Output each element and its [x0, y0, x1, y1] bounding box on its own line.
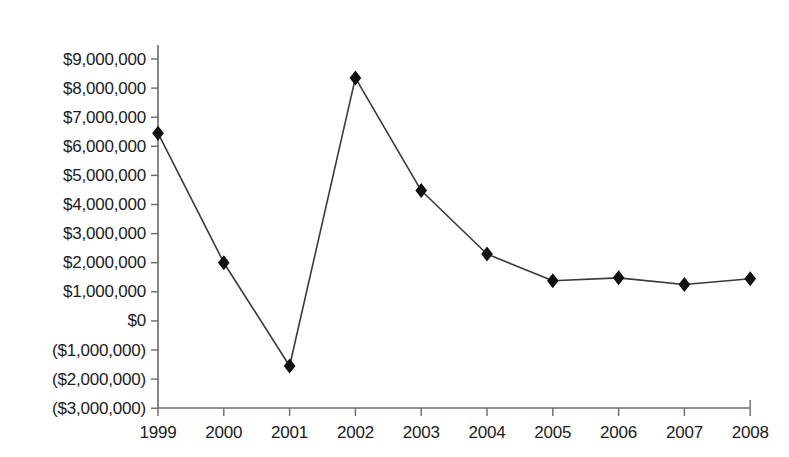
line-chart: $9,000,000$8,000,000$7,000,000$6,000,000…	[0, 0, 789, 457]
diamond-marker-icon	[481, 246, 493, 261]
diamond-marker-icon	[547, 273, 559, 288]
series-line	[158, 78, 750, 366]
diamond-marker-icon	[613, 270, 625, 285]
axes	[151, 45, 750, 416]
diamond-marker-icon	[415, 183, 427, 198]
diamond-marker-icon	[152, 126, 164, 141]
diamond-marker-icon	[350, 70, 362, 85]
diamond-marker-icon	[679, 277, 691, 292]
plot-area	[0, 0, 789, 457]
data-series	[158, 78, 750, 366]
diamond-marker-icon	[744, 271, 756, 286]
